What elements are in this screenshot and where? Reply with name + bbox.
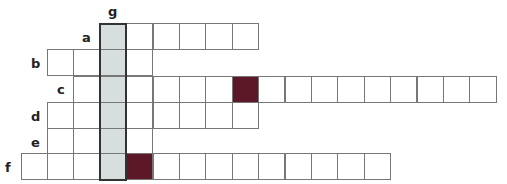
cell-b-4[interactable] xyxy=(126,49,153,76)
cell-c-4[interactable] xyxy=(153,76,180,103)
cell-e-1[interactable] xyxy=(47,128,74,155)
cell-c-14[interactable] xyxy=(417,76,444,103)
column-label-g: g xyxy=(108,5,117,18)
cell-c-12[interactable] xyxy=(364,76,391,103)
cell-f-14[interactable] xyxy=(364,153,391,180)
cell-f-5[interactable] xyxy=(126,153,153,180)
cell-b-3[interactable] xyxy=(100,49,127,76)
cell-e-3[interactable] xyxy=(100,128,127,155)
cell-b-2[interactable] xyxy=(73,49,100,76)
cell-d-8[interactable] xyxy=(232,102,259,129)
cell-c-16[interactable] xyxy=(469,76,496,103)
cell-d-1[interactable] xyxy=(47,102,74,129)
cell-c-8[interactable] xyxy=(258,76,285,103)
cell-f-2[interactable] xyxy=(47,153,74,180)
cell-c-1[interactable] xyxy=(73,76,100,103)
cell-b-1[interactable] xyxy=(47,49,74,76)
cell-f-7[interactable] xyxy=(179,153,206,180)
cell-f-13[interactable] xyxy=(337,153,364,180)
cell-c-11[interactable] xyxy=(337,76,364,103)
cell-a-3[interactable] xyxy=(153,23,180,50)
row-label-f: f xyxy=(5,161,11,174)
cell-c-6[interactable] xyxy=(205,76,232,103)
cell-f-11[interactable] xyxy=(285,153,312,180)
cell-e-2[interactable] xyxy=(73,128,100,155)
cell-a-4[interactable] xyxy=(179,23,206,50)
cell-e-4[interactable] xyxy=(126,128,153,155)
cell-a-2[interactable] xyxy=(126,23,153,50)
cell-a-1[interactable] xyxy=(100,23,127,50)
cell-f-4[interactable] xyxy=(100,153,127,180)
cell-f-10[interactable] xyxy=(258,153,285,180)
cell-d-7[interactable] xyxy=(205,102,232,129)
cell-c-2[interactable] xyxy=(100,76,127,103)
cell-a-6[interactable] xyxy=(232,23,259,50)
row-label-b: b xyxy=(31,57,40,70)
cell-f-6[interactable] xyxy=(153,153,180,180)
cell-d-6[interactable] xyxy=(179,102,206,129)
cell-d-2[interactable] xyxy=(73,102,100,129)
row-label-c: c xyxy=(57,83,65,96)
cell-f-12[interactable] xyxy=(311,153,338,180)
row-label-d: d xyxy=(31,110,40,123)
cell-c-3[interactable] xyxy=(126,76,153,103)
cell-c-13[interactable] xyxy=(390,76,417,103)
cell-c-15[interactable] xyxy=(443,76,470,103)
cell-c-9[interactable] xyxy=(285,76,312,103)
row-label-e: e xyxy=(31,136,40,149)
cell-c-5[interactable] xyxy=(179,76,206,103)
cell-d-5[interactable] xyxy=(153,102,180,129)
cell-f-9[interactable] xyxy=(232,153,259,180)
row-label-a: a xyxy=(82,31,91,44)
cell-f-1[interactable] xyxy=(21,153,48,180)
crossword-grid: g abcdef xyxy=(0,0,507,184)
cell-d-4[interactable] xyxy=(126,102,153,129)
cell-a-5[interactable] xyxy=(205,23,232,50)
cell-f-8[interactable] xyxy=(205,153,232,180)
cell-c-7[interactable] xyxy=(232,76,259,103)
cell-d-3[interactable] xyxy=(100,102,127,129)
cell-c-10[interactable] xyxy=(311,76,338,103)
cell-f-3[interactable] xyxy=(73,153,100,180)
